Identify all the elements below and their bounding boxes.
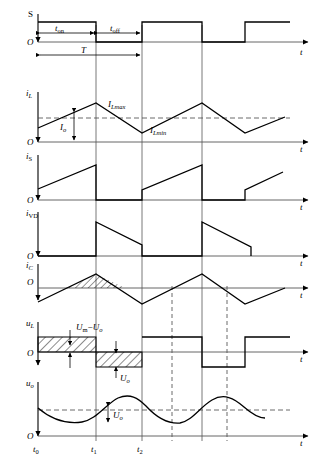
uo-drop-label: Uo — [120, 373, 131, 384]
il-origin-label: O — [27, 137, 34, 147]
ul-axis-label: uL — [26, 318, 35, 329]
uo-axis-label: uo — [26, 378, 35, 389]
panel-capacitor-current — [38, 264, 308, 304]
ivd-axis-label: iVD — [26, 208, 38, 219]
grid-vertical-dashed — [172, 286, 227, 441]
ilmin-label: ILmin — [149, 125, 166, 136]
waveform-figure: S O t ton toff T iL O t ILmax ILmin Io i… — [0, 0, 321, 458]
grid-vertical-solid — [96, 25, 202, 441]
is-waveform — [38, 165, 283, 200]
ul-origin-label: O — [27, 348, 34, 358]
ic-origin-label: O — [27, 277, 34, 287]
ivd-time-label: t — [300, 258, 303, 268]
il-time-label: t — [300, 144, 303, 154]
uo-waveform — [38, 396, 265, 423]
uo-time-label: t — [300, 438, 303, 448]
time-marker-t0: t0 — [33, 444, 39, 455]
waveform-svg: S O t ton toff T iL O t ILmax ILmin Io i… — [0, 0, 321, 458]
ic-waveform — [38, 274, 285, 304]
switch-origin-label: O — [27, 37, 34, 47]
panel-switch — [38, 14, 308, 55]
ul-time-label: t — [300, 354, 303, 364]
ul-hatched-negative — [96, 352, 142, 367]
t-off-label: toff — [110, 23, 121, 34]
il-axis-label: iL — [26, 88, 33, 99]
panel-diode-current — [38, 212, 308, 256]
ilmax-label: ILmax — [107, 99, 126, 110]
ic-time-label: t — [300, 290, 303, 300]
uo-ripple-label: Uo — [113, 410, 124, 421]
uo-origin-label: O — [27, 431, 34, 441]
ic-axis-label: iC — [26, 260, 34, 271]
ic-hatched-area — [67, 274, 125, 288]
is-axis-label: iS — [26, 151, 33, 162]
switch-waveform — [38, 22, 290, 42]
t-on-label: ton — [55, 23, 65, 34]
is-origin-label: O — [27, 195, 34, 205]
panel-inductor-current — [38, 92, 308, 142]
io-label: Io — [59, 122, 67, 133]
ivd-waveform — [38, 222, 251, 256]
ul-hatched-positive — [38, 337, 96, 352]
period-label: T — [81, 45, 87, 55]
switch-time-label: t — [300, 47, 303, 57]
panel-switch-current — [38, 155, 308, 200]
time-marker-t1: t1 — [91, 444, 97, 455]
panel-output-voltage — [38, 382, 308, 436]
switch-axis-label: S — [28, 9, 33, 19]
um-minus-uo-label: Um−Uo — [76, 322, 103, 333]
is-time-label: t — [300, 202, 303, 212]
time-marker-t2: t2 — [137, 444, 143, 455]
